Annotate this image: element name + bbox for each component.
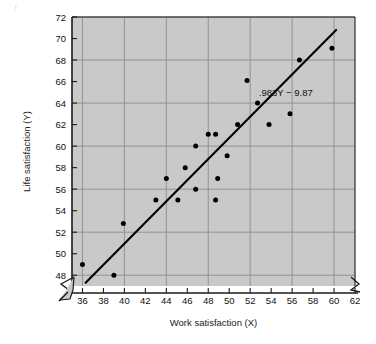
- data-point: [288, 111, 293, 116]
- data-point: [297, 58, 302, 63]
- y-axis-tick-label: 66: [55, 76, 66, 87]
- data-point: [255, 101, 260, 106]
- x-axis-tick-label: 44: [161, 295, 172, 306]
- plot-area-background: [72, 17, 355, 286]
- data-point: [213, 197, 218, 202]
- y-axis-title: Life satisfaction (Y): [21, 111, 32, 192]
- x-axis-tick-label: 54: [266, 295, 277, 306]
- x-axis-tick-label: 58: [308, 295, 319, 306]
- data-point: [111, 273, 116, 278]
- scatter-plot-figure: 3638404244464850525456586062485052545658…: [0, 0, 376, 344]
- data-point: [193, 144, 198, 149]
- y-axis-tick-label: 68: [55, 55, 66, 66]
- data-point: [215, 176, 220, 181]
- y-axis-tick-label: 54: [55, 205, 66, 216]
- data-point: [213, 132, 218, 137]
- y-axis-tick-label: 50: [55, 248, 66, 259]
- data-point: [175, 197, 180, 202]
- chart-canvas: 3638404244464850525456586062485052545658…: [0, 0, 376, 344]
- x-axis-tick-label: 38: [98, 295, 109, 306]
- x-axis-tick-label: 60: [329, 295, 340, 306]
- data-point: [121, 221, 126, 226]
- data-point: [235, 122, 240, 127]
- x-axis-tick-label: 52: [245, 295, 256, 306]
- regression-equation-label: .983Y − 9.87: [259, 87, 313, 98]
- y-axis-tick-label: 56: [55, 184, 66, 195]
- data-point: [183, 165, 188, 170]
- data-point: [267, 122, 272, 127]
- x-axis-tick-label: 48: [203, 295, 214, 306]
- x-axis-tick-label: 40: [119, 295, 130, 306]
- data-point: [153, 197, 158, 202]
- x-axis-tick-label: 56: [287, 295, 298, 306]
- y-axis-tick-label: 70: [55, 33, 66, 44]
- y-axis-tick-label: 60: [55, 141, 66, 152]
- data-point: [193, 187, 198, 192]
- x-axis-tick-label: 46: [182, 295, 193, 306]
- x-axis-title: Work satisfaction (X): [170, 317, 257, 328]
- data-point: [225, 153, 230, 158]
- data-point: [206, 132, 211, 137]
- data-point: [245, 78, 250, 83]
- corner-mark: ↑: [14, 4, 18, 11]
- data-point: [164, 176, 169, 181]
- x-axis-tick-label: 50: [224, 295, 235, 306]
- y-axis-tick-label: 52: [55, 227, 66, 238]
- y-axis-tick-label: 62: [55, 119, 66, 130]
- x-axis-tick-label: 62: [350, 295, 361, 306]
- data-point: [80, 262, 85, 267]
- y-axis-tick-label: 58: [55, 162, 66, 173]
- x-axis-tick-label: 36: [77, 295, 88, 306]
- y-axis-tick-label: 72: [55, 12, 66, 23]
- data-point: [329, 46, 334, 51]
- x-axis-tick-label: 42: [140, 295, 151, 306]
- y-axis-tick-label: 48: [55, 270, 66, 281]
- y-axis-tick-label: 64: [55, 98, 66, 109]
